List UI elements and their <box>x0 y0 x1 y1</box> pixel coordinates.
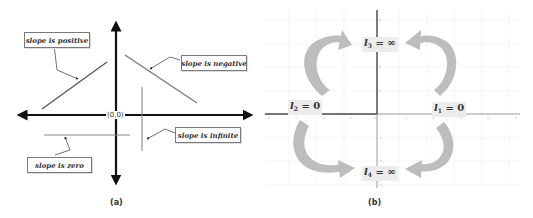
y-tick: -1 <box>379 136 382 140</box>
caption-b: (b) <box>368 198 381 207</box>
callout-slope-negative: slope is negative <box>181 55 247 71</box>
label-l2: l2 = 0 <box>288 100 322 115</box>
x-tick: 0 <box>374 116 376 120</box>
x-tick: -1 <box>349 116 352 120</box>
x-tick: 3 <box>460 116 462 120</box>
positive-slope-line <box>42 62 107 109</box>
callout-slope-zero: slope is zero <box>27 157 92 173</box>
y-tick: 4 <box>379 18 381 22</box>
x-tick: 5 <box>515 116 517 120</box>
y-tick: -2 <box>379 159 382 163</box>
x-tick: 1 <box>405 116 407 120</box>
x-tick: -4 <box>267 116 270 120</box>
y-tick: 1 <box>379 89 381 93</box>
arrow-bottom-left <box>293 120 355 178</box>
label-l4: l4 = ∞ <box>362 166 398 181</box>
y-tick: -3 <box>379 183 382 187</box>
y-tick: 2 <box>379 65 381 69</box>
origin-label: (0,0) <box>106 111 125 119</box>
panel-a-slope-lines <box>42 55 197 151</box>
caption-a: (a) <box>110 198 123 207</box>
callout-slope-infinite: slope is infinite <box>175 127 241 143</box>
x-tick: 4 <box>487 116 489 120</box>
label-l1: l1 = 0 <box>432 102 466 117</box>
x-tick: -3 <box>294 116 297 120</box>
arrow-bottom-right <box>405 122 453 178</box>
x-tick: 2 <box>432 116 434 120</box>
arrow-top-right <box>405 30 456 96</box>
arrow-top-left <box>304 30 352 96</box>
callout-slope-positive: slope is positive <box>24 32 90 48</box>
y-tick: 3 <box>379 42 381 46</box>
x-tick: -2 <box>322 116 325 120</box>
